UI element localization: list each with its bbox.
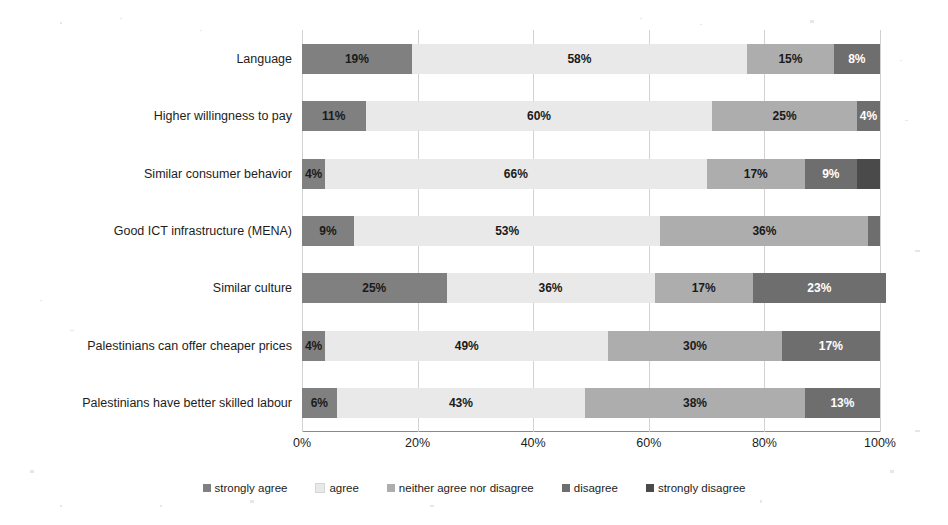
bar-segment: 30% (608, 331, 781, 361)
scan-artifact (60, 505, 62, 507)
bar-value-label: 9% (822, 167, 839, 181)
bar-value-label: 58% (567, 52, 591, 66)
bar-value-label: 25% (773, 109, 797, 123)
category-label: Good ICT infrastructure (MENA) (2, 224, 292, 238)
bar-value-label: 43% (449, 396, 473, 410)
bar-value-label: 36% (752, 224, 776, 238)
bar-value-label: 23% (807, 281, 831, 295)
legend-item[interactable]: disagree (562, 482, 618, 494)
scan-artifact (890, 470, 894, 473)
legend-label: agree (329, 482, 358, 494)
scan-artifact (60, 22, 62, 24)
bar-segment: 6% (302, 388, 337, 418)
legend-swatch-icon (387, 484, 395, 492)
legend-label: neither agree nor disagree (399, 482, 534, 494)
scan-artifact (905, 120, 908, 121)
bar-segment: 4% (857, 101, 880, 131)
bar-segment: 25% (712, 101, 857, 131)
bar-segment: 4% (302, 331, 325, 361)
category-label: Language (2, 52, 292, 66)
scan-artifact (40, 300, 42, 301)
bar-value-label: 6% (311, 396, 328, 410)
bar-segment: 58% (412, 44, 747, 74)
bar-row: 4%66%17%9% (302, 159, 880, 189)
bar-value-label: 36% (539, 281, 563, 295)
bar-segment: 13% (805, 388, 880, 418)
legend-swatch-icon (646, 484, 654, 492)
stacked-bar-chart: LanguageHigher willingness to paySimilar… (0, 0, 948, 525)
category-label: Higher willingness to pay (2, 109, 292, 123)
chart-legend: strongly agreeagreeneither agree nor dis… (0, 478, 948, 498)
bar-row: 25%36%17%23% (302, 273, 880, 303)
bar-value-label: 49% (455, 339, 479, 353)
scan-artifact (760, 500, 762, 503)
category-label: Palestinians can offer cheaper prices (2, 339, 292, 353)
bar-value-label: 25% (362, 281, 386, 295)
bar-segment: 4% (302, 159, 325, 189)
bar-segment (857, 159, 880, 189)
bar-value-label: 30% (683, 339, 707, 353)
legend-label: strongly agree (215, 482, 288, 494)
plot-area: 19%58%15%8%11%60%25%4%4%66%17%9%9%53%36%… (302, 30, 880, 432)
scan-artifact (915, 430, 920, 432)
bar-segment: 49% (325, 331, 608, 361)
bar-value-label: 11% (322, 109, 345, 123)
bar-value-label: 66% (504, 167, 528, 181)
category-label: Similar culture (2, 281, 292, 295)
x-axis-line (302, 431, 880, 432)
bar-value-label: 17% (692, 281, 716, 295)
bar-row: 19%58%15%8% (302, 44, 880, 74)
scan-artifact (160, 505, 162, 507)
bar-row: 9%53%36% (302, 216, 880, 246)
x-tick-label: 80% (729, 436, 799, 450)
scan-artifact (640, 18, 642, 19)
gridline (880, 30, 881, 432)
scan-artifact (70, 330, 74, 331)
category-axis-labels: LanguageHigher willingness to paySimilar… (0, 40, 292, 430)
bar-value-label: 4% (305, 167, 322, 181)
scan-artifact (30, 470, 34, 473)
scan-artifact (250, 500, 254, 503)
category-label: Similar consumer behavior (2, 167, 292, 181)
x-tick-label: 0% (267, 436, 337, 450)
bar-row: 6%43%38%13% (302, 388, 880, 418)
bar-segment: 19% (302, 44, 412, 74)
bar-segment: 17% (782, 331, 880, 361)
bar-segment: 36% (660, 216, 868, 246)
bar-segment: 11% (302, 101, 366, 131)
legend-item[interactable]: agree (315, 482, 358, 494)
x-axis-tick-labels: 0%20%40%60%80%100% (0, 436, 948, 456)
bar-segment: 53% (354, 216, 660, 246)
bar-value-label: 38% (683, 396, 707, 410)
bar-value-label: 4% (305, 339, 322, 353)
x-tick-label: 60% (614, 436, 684, 450)
bar-value-label: 53% (495, 224, 519, 238)
bar-value-label: 60% (527, 109, 551, 123)
bar-value-label: 4% (860, 109, 877, 123)
bar-segment: 17% (707, 159, 805, 189)
scan-artifact (700, 24, 702, 25)
bar-segment (868, 216, 880, 246)
bar-segment: 36% (447, 273, 655, 303)
x-tick-label: 40% (498, 436, 568, 450)
legend-label: disagree (574, 482, 618, 494)
x-tick-label: 20% (383, 436, 453, 450)
bar-segment: 8% (834, 44, 880, 74)
legend-item[interactable]: strongly disagree (646, 482, 746, 494)
bar-segment: 15% (747, 44, 834, 74)
legend-item[interactable]: neither agree nor disagree (387, 482, 534, 494)
legend-swatch-icon (203, 484, 211, 492)
category-label: Palestinians have better skilled labour (2, 396, 292, 410)
scan-artifact (810, 20, 814, 23)
bar-segment: 38% (585, 388, 805, 418)
legend-swatch-icon (562, 484, 570, 492)
bar-segment: 9% (302, 216, 354, 246)
bar-segment: 43% (337, 388, 586, 418)
bar-value-label: 9% (319, 224, 336, 238)
scan-artifact (200, 30, 202, 31)
x-tick-label: 100% (845, 436, 915, 450)
bar-value-label: 8% (848, 52, 865, 66)
bar-segment: 9% (805, 159, 857, 189)
legend-item[interactable]: strongly agree (203, 482, 288, 494)
bar-value-label: 17% (744, 167, 768, 181)
